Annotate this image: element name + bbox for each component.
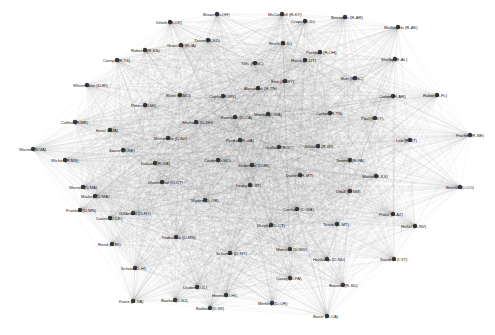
node-label: Warner (D-VA) (19, 147, 47, 152)
graph-node[interactable]: Graham (R-SC) (265, 145, 295, 150)
graph-node[interactable]: Feinstein (D-CA) (221, 115, 253, 120)
graph-node[interactable]: Enzi (R-WY) (271, 79, 295, 84)
graph-node[interactable]: Corker (R-TN) (316, 111, 343, 116)
graph-node[interactable]: Hatch (R-UT) (291, 58, 316, 63)
graph-node[interactable]: Whitehouse (D-RI) (73, 83, 108, 88)
node-label: Ernst (R-IA) (96, 128, 119, 133)
graph-node[interactable]: Manchin (D-WV) (276, 247, 308, 252)
graph-node[interactable]: Peters (D-MI) (131, 103, 157, 108)
node-label: Murray (D-WA) (254, 112, 283, 117)
graph-node[interactable]: McConnell (R-KY) (268, 12, 302, 17)
graph-node[interactable]: Moran (R-KS) (362, 174, 388, 179)
graph-edge (83, 187, 135, 268)
node-label: Cotton (R-AR) (379, 94, 406, 99)
graph-node[interactable]: Cotton (R-AR) (379, 94, 406, 99)
node-label: Brown (D-OH) (203, 12, 230, 17)
graph-node[interactable]: Warner (D-VA) (19, 147, 47, 152)
graph-node[interactable]: Grassley (R-IA) (167, 43, 196, 48)
graph-node[interactable]: Baldwin (D-WI) (196, 306, 225, 311)
graph-node[interactable]: Blumenthal (D-CT) (148, 180, 184, 185)
graph-node[interactable]: Brown (D-OH) (203, 12, 230, 17)
graph-node[interactable]: Flake (R-AZ) (379, 212, 404, 217)
graph-node[interactable]: Perdue (R-GA) (226, 138, 255, 143)
graph-node[interactable]: Ernst (R-IA) (96, 128, 119, 133)
graph-edge (272, 259, 327, 303)
graph-node[interactable]: Sasse (R-NE) (109, 148, 135, 153)
graph-node[interactable]: Cornyn (R-TX) (103, 58, 131, 63)
node-label: Roberts (R-KS) (131, 48, 160, 53)
graph-node[interactable]: Schatz (D-HI) (121, 266, 147, 271)
graph-node[interactable]: Leahy (D-VT) (236, 183, 262, 188)
graph-node[interactable]: Capito (R-WV) (209, 94, 237, 99)
graph-edge (33, 122, 75, 149)
node-label: Fischer (R-NE) (456, 133, 485, 138)
node-label: Moran (R-KS) (362, 174, 388, 179)
graph-node[interactable]: Casey (D-PA) (276, 276, 302, 281)
graph-node[interactable]: Fischer (R-NE) (456, 133, 485, 138)
graph-node[interactable]: Daines (R-MT) (286, 173, 314, 178)
graph-node[interactable]: Sanders (I-VT) (380, 257, 408, 262)
graph-node[interactable]: Reed (D-RI) (98, 242, 121, 247)
graph-node[interactable]: Udall (D-NM) (336, 189, 361, 194)
graph-node[interactable]: Heitkamp (D-ND) (313, 257, 346, 262)
graph-node[interactable]: Burr (R-NC) (341, 76, 364, 81)
graph-node[interactable]: Crapo (R-ID) (291, 19, 316, 24)
node-label: Risch (R-ID) (269, 41, 293, 46)
graph-node[interactable]: Stabenow (D-MI) (238, 163, 270, 168)
graph-node[interactable]: Boxer (D-CA) (313, 314, 339, 319)
graph-node[interactable]: Shelby (R-AL) (381, 57, 408, 62)
graph-node[interactable]: Murphy (D-CT) (257, 223, 286, 228)
graph-node[interactable]: Markey (D-MA) (81, 194, 110, 199)
node-label: Tester (D-MT) (323, 222, 349, 227)
graph-node[interactable]: Roberts (R-KS) (131, 48, 160, 53)
graph-node[interactable]: Inhofe (R-OK) (156, 20, 183, 25)
graph-node[interactable]: Booker (D-NJ) (161, 298, 188, 303)
graph-node[interactable]: Johnson (R-WI) (304, 144, 334, 149)
graph-node[interactable]: Tillis (R-NC) (241, 61, 264, 66)
node-label: Markey (D-MA) (81, 194, 110, 199)
graph-node[interactable]: Boozman (R-AR) (331, 15, 363, 20)
graph-node[interactable]: Isakson (R-GA) (141, 161, 170, 166)
graph-node[interactable]: Shaheen (D-NH) (182, 120, 214, 125)
graph-node[interactable]: Blunt (R-MO) (166, 93, 191, 98)
node-label: Schatz (D-HI) (121, 266, 147, 271)
graph-node[interactable]: Thune (R-SD) (194, 38, 221, 43)
graph-node[interactable]: Menendez (D-NJ) (154, 136, 188, 141)
node-label: Whitehouse (D-RI) (73, 83, 108, 88)
graph-node[interactable]: Toomey (R-PA) (336, 158, 365, 163)
graph-node[interactable]: Cardin (D-MD) (204, 158, 232, 163)
graph-node[interactable]: Schumer (D-NY) (216, 251, 248, 256)
node-label: Hirono (D-HI) (212, 293, 237, 298)
graph-node[interactable]: Hirono (D-HI) (212, 293, 237, 298)
graph-node[interactable]: Murray (D-WA) (254, 112, 283, 117)
graph-node[interactable]: Franken (D-MN) (66, 208, 97, 213)
graph-node[interactable]: Coons (D-DE) (96, 216, 123, 221)
graph-node[interactable]: Risch (R-ID) (269, 41, 293, 46)
graph-node[interactable]: Portman (R-OH) (306, 50, 337, 55)
graph-node[interactable]: Bennet (D-CO) (446, 185, 475, 190)
graph-edge (343, 259, 394, 285)
graph-node[interactable]: Cantwell (D-WA) (283, 207, 315, 212)
graph-node[interactable]: Paul (R-KY) (361, 116, 384, 121)
node-label: Schumer (D-NY) (216, 251, 248, 256)
graph-node[interactable]: Lee (R-UT) (396, 138, 418, 143)
graph-node[interactable]: Murkowski (R-AK) (384, 25, 418, 30)
node-label: Corker (R-TN) (316, 111, 343, 116)
graph-node[interactable]: Durbin (D-IL) (183, 285, 208, 290)
node-label: Inhofe (R-OK) (156, 20, 183, 25)
graph-node[interactable]: Alexander (R-TN) (244, 86, 277, 91)
node-label: Daines (R-MT) (286, 173, 314, 178)
graph-node[interactable]: Wicker (R-MS) (51, 158, 79, 163)
graph-node[interactable]: Rubio (R-FL) (423, 93, 448, 98)
graph-node[interactable]: Warren (D-MA) (69, 185, 98, 190)
graph-node[interactable]: Kaine (D-VA) (119, 299, 144, 304)
graph-node[interactable]: Heller (R-NV) (401, 224, 427, 229)
graph-node[interactable]: Klobuchar (D-MN) (162, 235, 196, 240)
graph-edge (87, 60, 117, 85)
graph-node[interactable]: Tester (D-MT) (323, 222, 349, 227)
graph-node[interactable]: Rounds (R-SD) (329, 283, 358, 288)
graph-node[interactable]: Collins (R-ME) (61, 120, 89, 125)
graph-node[interactable]: Gillibrand (D-NY) (119, 211, 151, 216)
graph-node[interactable]: Merkley (D-OR) (258, 301, 288, 306)
graph-node[interactable]: Wyden (D-OR) (191, 198, 219, 203)
